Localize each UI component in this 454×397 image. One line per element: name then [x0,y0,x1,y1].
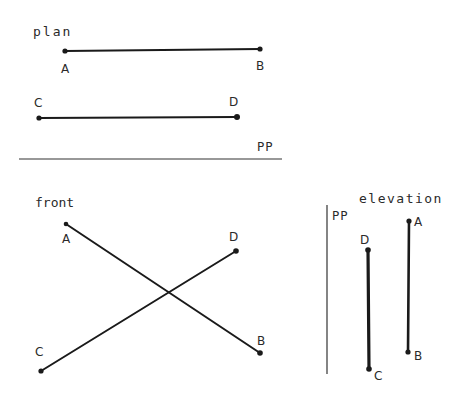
elevation-point-d-dot [365,247,371,253]
elevation-segment-ab [408,221,409,352]
plan-point-d-label: D [229,95,238,109]
elevation-title: elevation [359,191,443,206]
plan-point-c-dot [36,115,41,120]
elevation-segment-dc [368,250,369,369]
elevation-point-c-label: C [374,369,382,383]
front-point-b-dot [257,350,263,356]
front-point-a-label: A [62,232,71,246]
plan-segment-ab [65,49,260,51]
front-point-d-label: D [229,230,238,244]
plan-point-b-dot [257,46,262,51]
front-title: front [35,195,74,210]
elevation-point-d-label: D [360,233,369,247]
elevation-point-b-dot [405,349,410,354]
plan-pp-label: PP [257,140,273,154]
front-segment-cd [41,251,236,371]
elevation-pp-label: PP [332,209,348,223]
plan-title: plan [33,24,72,39]
elevation-point-b-label: B [414,349,422,363]
plan-point-b-label: B [256,59,264,73]
front-point-a-dot [64,222,69,227]
front-point-d-dot [233,248,239,254]
elevation-point-a-dot [406,218,411,223]
plan-point-c-label: C [34,96,42,110]
front-point-c-dot [38,368,43,373]
front-view: front A B C D [35,195,265,374]
elevation-point-c-dot [366,366,372,372]
plan-point-a-label: A [61,62,70,76]
plan-point-a-dot [62,48,67,53]
plan-view: plan A B C D PP [19,24,282,159]
front-point-c-label: C [35,345,43,359]
plan-point-d-dot [234,114,240,120]
plan-segment-cd [39,117,237,118]
projection-diagram: plan A B C D PP front A B C D elevation … [0,0,454,397]
elevation-point-a-label: A [414,215,423,229]
front-point-b-label: B [257,334,265,348]
elevation-view: elevation PP D C A B [327,191,443,383]
